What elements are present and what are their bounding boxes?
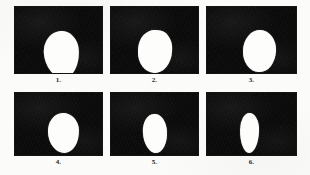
panel-background-5 — [110, 92, 199, 156]
figure-panel-6: 6. — [206, 92, 297, 167]
figure-panel-2: 2. — [110, 6, 199, 85]
panel-label-2: 2. — [110, 76, 199, 85]
panel-label-5: 5. — [110, 158, 199, 167]
figure-panel-3: 3. — [206, 6, 297, 85]
panel-label-3: 3. — [206, 76, 297, 85]
specimen-silhouette-1 — [42, 29, 80, 74]
figure-panel-1: 1. — [14, 6, 103, 85]
panel-background-1 — [14, 6, 103, 74]
specimen-silhouette-2 — [137, 29, 173, 74]
panel-label-1: 1. — [14, 76, 103, 85]
panel-label-4: 4. — [14, 158, 103, 167]
specimen-silhouette-4 — [47, 112, 79, 153]
figure-panel-4: 4. — [14, 92, 103, 167]
specimen-silhouette-5 — [142, 113, 168, 153]
panel-grid: 1.2.3.4.5.6. — [0, 0, 310, 175]
panel-label-6: 6. — [206, 158, 297, 167]
specimen-silhouette-3 — [242, 29, 276, 72]
panel-background-6 — [206, 92, 297, 156]
panel-background-3 — [206, 6, 297, 74]
figure-panel-5: 5. — [110, 92, 199, 167]
specimen-silhouette-6 — [239, 113, 259, 153]
panel-background-4 — [14, 92, 103, 156]
figure-plate: 1.2.3.4.5.6. — [0, 0, 310, 175]
panel-background-2 — [110, 6, 199, 74]
